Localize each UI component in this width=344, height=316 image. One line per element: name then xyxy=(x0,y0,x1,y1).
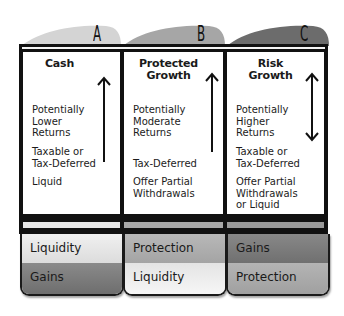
tab-c-shape xyxy=(227,24,330,46)
arrow-up-icon xyxy=(205,72,219,152)
text-line: Taxable or xyxy=(236,146,300,158)
text-line: Returns xyxy=(236,127,289,139)
band-c xyxy=(227,222,324,228)
tax-text: Tax-Deferred xyxy=(133,158,197,170)
text-line: Potentially xyxy=(236,104,289,116)
box-cell-gains: Gains xyxy=(228,234,328,264)
text-line: Potentially xyxy=(133,104,186,116)
box-cell-protection: Protection xyxy=(228,263,328,294)
tab-b-shape xyxy=(123,24,226,46)
box-column-c: Gains Protection xyxy=(226,234,330,296)
tab-c-letter: C xyxy=(300,21,308,46)
returns-text: Potentially Higher Returns xyxy=(236,104,289,139)
text-line: or Liquid xyxy=(236,199,298,211)
column-title: Protected Growth xyxy=(134,58,203,82)
text-line: Withdrawals xyxy=(236,188,298,200)
text-line: Lower xyxy=(32,116,85,128)
column-title: Cash xyxy=(23,58,96,70)
top-strip xyxy=(22,47,325,49)
arrow-up-icon xyxy=(97,76,111,162)
title-line2: Growth xyxy=(237,70,304,82)
tax-text: Taxable or Tax-Deferred xyxy=(32,146,96,169)
box-column-a: Liquidity Gains xyxy=(20,234,124,296)
box-cell-liquidity: Liquidity xyxy=(125,263,225,294)
returns-text: Potentially Lower Returns xyxy=(32,104,85,139)
access-text: Offer Partial Withdrawals or Liquid xyxy=(236,176,298,211)
text-line: Offer Partial xyxy=(133,176,195,188)
text-line: Tax-Deferred xyxy=(32,158,96,170)
text-line: Higher xyxy=(236,116,289,128)
access-text: Liquid xyxy=(32,176,62,188)
text-line: Moderate xyxy=(133,116,186,128)
band-b xyxy=(124,222,223,228)
text-line: Liquid xyxy=(32,176,62,188)
text-line: Potentially xyxy=(32,104,85,116)
column-protected-growth: Protected Growth Potentially Moderate Re… xyxy=(124,52,223,214)
column-risk-growth: Risk Growth Potentially Higher Returns T… xyxy=(227,52,324,214)
text-line: Returns xyxy=(32,127,85,139)
tax-text: Taxable or Tax-Deferred xyxy=(236,146,300,169)
text-line: Tax-Deferred xyxy=(133,158,197,170)
column-cash: Cash Potentially Lower Returns Taxable o… xyxy=(23,52,120,214)
tab-c: C xyxy=(227,24,330,46)
column-title: Risk Growth xyxy=(237,58,304,82)
text-line: Offer Partial xyxy=(236,176,298,188)
text-line: Returns xyxy=(133,127,186,139)
arrow-up-down-icon xyxy=(305,72,319,142)
title-line1: Cash xyxy=(23,58,96,70)
box-cell-gains: Gains xyxy=(22,263,122,294)
tab-b: B xyxy=(123,24,226,46)
text-line: Taxable or xyxy=(32,146,96,158)
band-a xyxy=(23,222,120,228)
access-text: Offer Partial Withdrawals xyxy=(133,176,195,199)
box-cell-protection: Protection xyxy=(125,234,225,264)
tab-a-shape xyxy=(21,24,122,46)
title-line2: Growth xyxy=(134,70,203,82)
tab-b-letter: B xyxy=(197,21,205,46)
returns-text: Potentially Moderate Returns xyxy=(133,104,186,139)
tab-a: A xyxy=(21,24,122,46)
text-line: Tax-Deferred xyxy=(236,158,300,170)
box-cell-liquidity: Liquidity xyxy=(22,234,122,264)
tab-a-letter: A xyxy=(93,21,101,46)
box-column-b: Protection Liquidity xyxy=(123,234,227,296)
text-line: Withdrawals xyxy=(133,188,195,200)
comparison-frame: Cash Potentially Lower Returns Taxable o… xyxy=(19,44,328,234)
